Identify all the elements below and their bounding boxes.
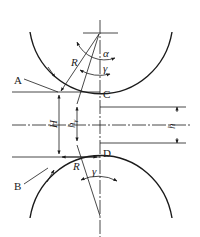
gamma-top-label: γ [103,62,108,74]
top-roll-arc [30,32,172,94]
point-B-label: B [14,180,21,192]
h-label: h [165,123,177,129]
roll-gap-diagram: A B C D R R α γ γ H hγ h [0,0,200,237]
H-label: H [47,119,59,129]
gamma-bottom-label: γ [92,165,97,177]
leader-A [24,79,58,92]
leader-B [24,168,48,184]
point-D-label: D [103,147,111,159]
h-gamma-label: hγ [65,120,79,129]
alpha-label: α [103,47,109,59]
bottom-roll-rotation-arrow [47,170,54,182]
point-C-label: C [103,88,110,100]
bottom-roll-arc [30,155,172,218]
top-radius-label: R [70,56,78,68]
bottom-radius-label: R [72,160,80,172]
top-radius-line-A [61,34,99,91]
point-A-label: A [14,74,22,86]
gamma-bottom-angle-arc [81,176,117,181]
